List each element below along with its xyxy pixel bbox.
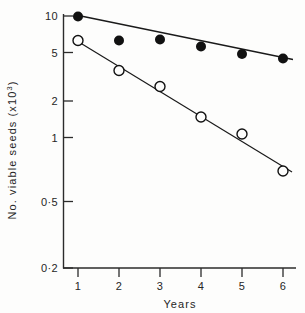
trend-line-filled-series	[76, 15, 293, 60]
x-axis-ticks	[78, 268, 283, 277]
y-axis-ticks	[64, 16, 74, 268]
axis-lines	[63, 14, 296, 269]
trend-line-open-series	[73, 39, 292, 173]
x-axis-tick-labels: 1 2 3 4 5 6	[75, 280, 287, 292]
data-series-filled-circles	[73, 12, 288, 64]
y-tick-label-0-5: 0·5	[41, 196, 58, 208]
seed-viability-chart: 10 5 2 1 0·5 0·2 1 2 3 4 5 6 Years	[0, 0, 305, 313]
data-point-open	[155, 82, 165, 92]
data-series-open-circles	[73, 36, 288, 177]
data-point-filled	[278, 54, 288, 64]
data-point-filled	[155, 35, 165, 45]
data-point-open	[73, 36, 83, 46]
x-tick-label-6: 6	[280, 280, 287, 292]
data-point-open	[196, 112, 206, 122]
data-point-filled	[237, 49, 247, 59]
data-point-filled	[196, 42, 206, 52]
y-axis-title-main: No. viable seeds (x10	[6, 91, 18, 220]
x-tick-label-4: 4	[198, 280, 205, 292]
y-tick-label-5: 5	[51, 47, 58, 59]
y-tick-label-2: 2	[51, 95, 58, 107]
y-axis-tick-labels: 10 5 2 1 0·5 0·2	[41, 10, 58, 274]
data-point-filled	[73, 12, 83, 22]
figure-container: 10 5 2 1 0·5 0·2 1 2 3 4 5 6 Years	[0, 0, 305, 313]
data-point-open	[237, 129, 247, 139]
y-tick-label-0-2: 0·2	[41, 262, 58, 274]
data-point-open	[278, 166, 288, 176]
data-point-filled	[114, 36, 124, 46]
y-tick-label-10: 10	[45, 10, 58, 22]
y-tick-label-1: 1	[51, 132, 58, 144]
y-axis-title: No. viable seeds (x103)	[5, 81, 18, 220]
x-tick-label-5: 5	[239, 280, 246, 292]
svg-text:No. viable seeds (x103): No. viable seeds (x103)	[5, 81, 18, 220]
x-tick-label-2: 2	[116, 280, 123, 292]
x-tick-label-3: 3	[157, 280, 164, 292]
y-axis-title-suffix: )	[6, 81, 18, 86]
x-tick-label-1: 1	[75, 280, 82, 292]
x-axis-title: Years	[163, 298, 196, 310]
data-point-open	[114, 66, 124, 76]
